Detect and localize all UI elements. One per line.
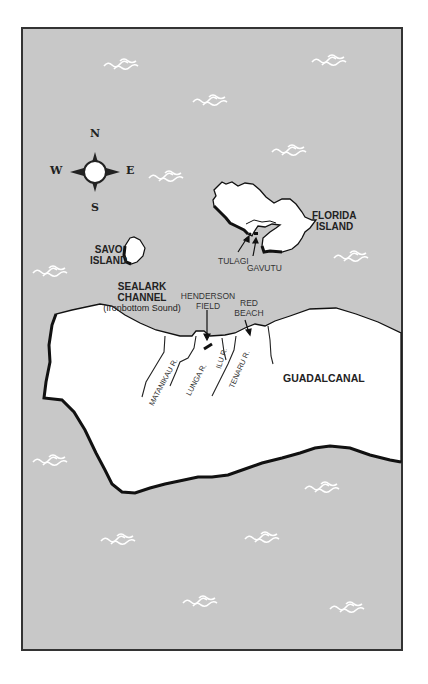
red-beach-label: RED BEACH xyxy=(234,298,264,318)
compass-south: S xyxy=(91,201,99,214)
savo-island-label: SAVO ISLAND xyxy=(90,244,127,266)
channel-label-line3: (Ironbottom Sound) xyxy=(100,303,184,314)
compass-north: N xyxy=(90,127,100,140)
guadalcanal-label: GUADALCANAL xyxy=(283,372,365,384)
channel-label-line2: CHANNEL xyxy=(100,292,184,303)
tulagi-label: TULAGI xyxy=(218,256,249,266)
compass-east: E xyxy=(126,164,134,177)
compass-west: W xyxy=(50,164,62,177)
henderson-label-line1: HENDERSON xyxy=(178,291,238,301)
savo-label-line1: SAVO xyxy=(90,244,127,255)
red-beach-label-line2: BEACH xyxy=(234,308,264,318)
red-beach-label-line1: RED xyxy=(234,298,264,308)
sealark-channel-label: SEALARK CHANNEL (Ironbottom Sound) xyxy=(100,281,184,314)
channel-label-line1: SEALARK xyxy=(100,281,184,292)
gavutu-label: GAVUTU xyxy=(247,263,282,273)
savo-label-line2: ISLAND xyxy=(90,255,127,266)
henderson-field-label: HENDERSON FIELD xyxy=(178,291,238,311)
florida-label-line1: FLORIDA xyxy=(312,210,356,221)
map-canvas xyxy=(0,0,428,684)
florida-island-label: FLORIDA ISLAND xyxy=(312,210,356,232)
henderson-label-line2: FIELD xyxy=(178,301,238,311)
florida-label-line2: ISLAND xyxy=(312,221,356,232)
